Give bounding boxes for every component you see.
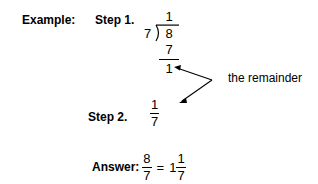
answer-whole-number: 1 [169, 160, 176, 175]
long-division-dividend: 8 [162, 27, 176, 40]
answer-row: Answer: 8 7 = 1 1 7 [92, 152, 186, 182]
answer-improper-fraction: 8 7 [142, 152, 151, 182]
long-division-quotient: 1 [162, 10, 176, 23]
worksheet-figure: Example: Step 1. 1 7 8 7 1 the remainder… [0, 0, 318, 184]
step2-fraction-numerator: 1 [150, 98, 159, 112]
step2-fraction: 1 7 [150, 98, 159, 128]
step2-fraction-denominator: 7 [150, 115, 159, 129]
step2-label: Step 2. [88, 111, 127, 123]
long-division-subtrahend: 7 [162, 43, 176, 56]
answer-improper-denominator: 7 [142, 169, 151, 183]
answer-mixed-fraction: 1 7 [176, 152, 185, 182]
answer-mixed-denominator: 7 [176, 169, 185, 183]
answer-mixed-numerator: 1 [176, 152, 185, 166]
equals-sign: = [157, 160, 165, 175]
answer-label: Answer: [92, 160, 139, 174]
step1-label: Step 1. [95, 14, 134, 26]
example-label: Example: [22, 14, 75, 26]
answer-improper-numerator: 8 [142, 152, 151, 166]
long-division-divisor: 7 [144, 27, 151, 40]
remainder-callout-label: the remainder [228, 72, 302, 84]
